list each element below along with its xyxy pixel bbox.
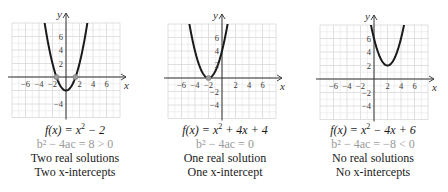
y-tick-label: −2 <box>362 88 371 98</box>
x-tick-label: 2 <box>77 79 81 89</box>
y-axis-label: y <box>56 8 62 20</box>
x-tick-label: −6 <box>21 79 30 89</box>
y-tick-label: −4 <box>362 101 372 111</box>
x-tick-label: −6 <box>177 80 186 90</box>
x-tick-label: −6 <box>329 81 338 91</box>
x-tick-label: 6 <box>412 81 416 91</box>
x-tick-label: 6 <box>260 80 264 90</box>
x-tick-label: 4 <box>399 81 404 91</box>
intercepts-label: One x-intercept <box>150 165 300 180</box>
graph-one-solution: xy−6−4−2246246−2−4 <box>150 0 300 122</box>
x-tick-label: 6 <box>104 79 108 89</box>
x-axis-label: x <box>279 80 285 92</box>
solutions-label: One real solution <box>150 151 300 166</box>
intercepts-label: Two x-intercepts <box>0 165 150 180</box>
y-tick-label: −4 <box>54 99 64 109</box>
panel-no-solutions: xy−6−4−2246246−2−4 f(x) = x2 − 4x + 6 b²… <box>298 0 448 192</box>
y-tick-label: −4 <box>210 100 220 110</box>
solutions-label: No real solutions <box>298 151 448 166</box>
y-tick-label: 2 <box>367 61 371 71</box>
x-tick-label: 4 <box>247 80 252 90</box>
discriminant-label: b² − 4ac = 8 > 0 <box>0 137 150 152</box>
x-tick-label: −4 <box>34 79 44 89</box>
x-axis-label: x <box>123 79 129 91</box>
y-axis-label: y <box>364 10 370 22</box>
panel-one-solution: xy−6−4−2246246−2−4 f(x) = x2 + 4x + 4 b²… <box>150 0 300 192</box>
y-tick-label: 2 <box>215 60 219 70</box>
intercepts-label: No x-intercepts <box>298 165 448 180</box>
panel-two-solutions: xy−6−4−2246246−4 f(x) = x2 − 2 b² − 4ac … <box>0 0 150 192</box>
function-label: f(x) = x2 − 4x + 6 <box>298 122 448 138</box>
x-intercept-point <box>206 75 211 80</box>
y-tick-label: 2 <box>59 59 63 69</box>
x-tick-label: 2 <box>385 81 389 91</box>
graph-two-solutions: xy−6−4−2246246−4 <box>0 0 150 122</box>
y-tick-label: 6 <box>367 34 371 44</box>
x-tick-label: −2 <box>48 79 57 89</box>
y-tick-label: −2 <box>210 87 219 97</box>
x-intercept-point <box>54 74 59 79</box>
x-tick-label: −4 <box>342 81 352 91</box>
y-tick-label: 6 <box>59 32 63 42</box>
x-axis-label: x <box>431 81 437 93</box>
y-tick-label: 6 <box>215 33 219 43</box>
graph-no-solutions: xy−6−4−2246246−2−4 <box>298 0 448 122</box>
x-intercept-point <box>73 74 78 79</box>
x-tick-label: −4 <box>190 80 200 90</box>
solutions-label: Two real solutions <box>0 151 150 166</box>
function-label: f(x) = x2 − 2 <box>0 122 150 138</box>
y-axis-label: y <box>212 9 218 21</box>
discriminant-label: b² − 4ac = 0 <box>150 137 300 152</box>
function-label: f(x) = x2 + 4x + 4 <box>150 122 300 138</box>
discriminant-label: b² − 4ac = −8 < 0 <box>298 137 448 152</box>
x-tick-label: 4 <box>91 79 96 89</box>
x-tick-label: 2 <box>233 80 237 90</box>
